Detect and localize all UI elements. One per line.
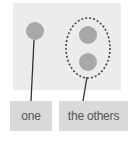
connector-one bbox=[31, 40, 34, 101]
label-others-text: the others bbox=[68, 109, 119, 123]
other-circle-1 bbox=[79, 26, 97, 44]
connector-others bbox=[83, 77, 87, 101]
other-circle-2 bbox=[79, 53, 97, 71]
label-one-text: one bbox=[21, 109, 40, 123]
label-one: one bbox=[10, 101, 52, 131]
label-the-others: the others bbox=[59, 101, 128, 131]
single-circle bbox=[26, 22, 44, 40]
